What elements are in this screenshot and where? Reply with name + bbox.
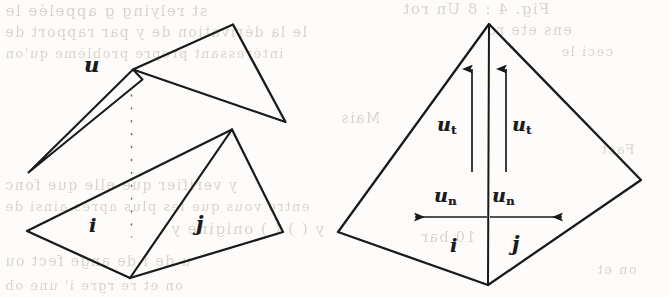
label-u-tangential-right-subscript: t [526,123,531,137]
label-right-element-i: i [450,236,457,255]
label-u-normal-right-subscript: n [506,194,515,208]
sliver-triangle [29,70,143,173]
label-u-tangential-left-base: u [437,113,451,135]
lower-quad [27,130,283,279]
label-u-tangential-right-base: u [512,113,526,135]
figure-container: st relying g appelée le le la dérivation… [0,0,669,297]
diagram-line-art [0,0,669,297]
left-diagram-group [27,25,286,279]
label-u-normal-left-base: u [434,184,448,206]
label-right-element-j: j [512,234,519,254]
label-u-normal-right: un [492,186,514,205]
label-u-normal-left-subscript: n [448,194,457,208]
lower-quad-diagonal [130,130,232,279]
label-left-element-i: i [89,216,96,235]
label-u: u [84,54,99,75]
label-u-tangential-left-subscript: t [451,123,456,137]
label-left-element-j: j [196,214,203,234]
label-u-normal-right-base: u [492,184,506,206]
upper-triangle [133,25,286,123]
kite-center-seam [488,25,489,284]
right-diagram-group [338,24,641,285]
label-u-tangential-right: ut [512,115,531,134]
label-u-tangential-left: ut [437,115,456,134]
label-u-normal-left: un [434,186,456,205]
